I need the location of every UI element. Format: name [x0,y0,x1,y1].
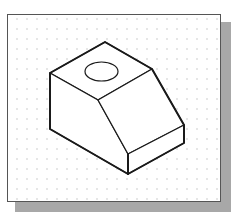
isometric-drawing [0,0,233,213]
